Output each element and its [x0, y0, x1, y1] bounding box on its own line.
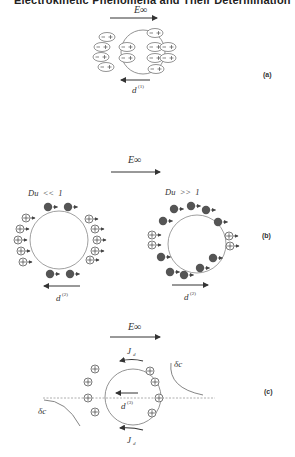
svg-text:d: d	[133, 441, 136, 446]
svg-text:δc: δc	[38, 406, 46, 416]
svg-text:J: J	[127, 346, 132, 356]
svg-text:d: d	[133, 352, 136, 357]
svg-text:d: d	[121, 401, 126, 411]
panel-a: E∞ d (1) (a)	[93, 4, 272, 95]
panel-b: E∞ (b) Du << 1 d (2) Du >	[14, 154, 271, 303]
svg-text:Du >> 1: Du >> 1	[164, 187, 200, 197]
svg-text:(2): (2)	[190, 291, 196, 296]
svg-text:(3): (3)	[127, 400, 133, 405]
svg-text:δc: δc	[174, 359, 182, 369]
svg-text:d: d	[184, 292, 189, 302]
panel-label-c: (c)	[264, 388, 273, 396]
svg-text:E∞: E∞	[127, 154, 141, 165]
panel-c: E∞ (c) J d J d d (3) δc δc	[38, 321, 273, 446]
panel-label-a: (a)	[263, 71, 272, 79]
svg-text:E∞: E∞	[133, 4, 147, 15]
svg-text:(2): (2)	[62, 292, 68, 297]
svg-text:E∞: E∞	[127, 321, 141, 332]
field-label-a: E∞	[133, 4, 147, 15]
svg-text:d: d	[132, 85, 137, 95]
svg-text:d: d	[56, 293, 61, 303]
panel-label-b: (b)	[262, 232, 271, 240]
svg-text:(1): (1)	[138, 84, 144, 89]
figure: E∞ d (1) (a) E∞ (b) Du << 1	[0, 0, 295, 457]
panel-b-left: Du << 1 d (2)	[14, 188, 106, 303]
svg-text:J: J	[127, 435, 132, 445]
svg-text:Du << 1: Du << 1	[27, 188, 63, 198]
panel-b-right: Du >> 1 d (2)	[148, 187, 239, 302]
dipoles	[93, 29, 176, 74]
